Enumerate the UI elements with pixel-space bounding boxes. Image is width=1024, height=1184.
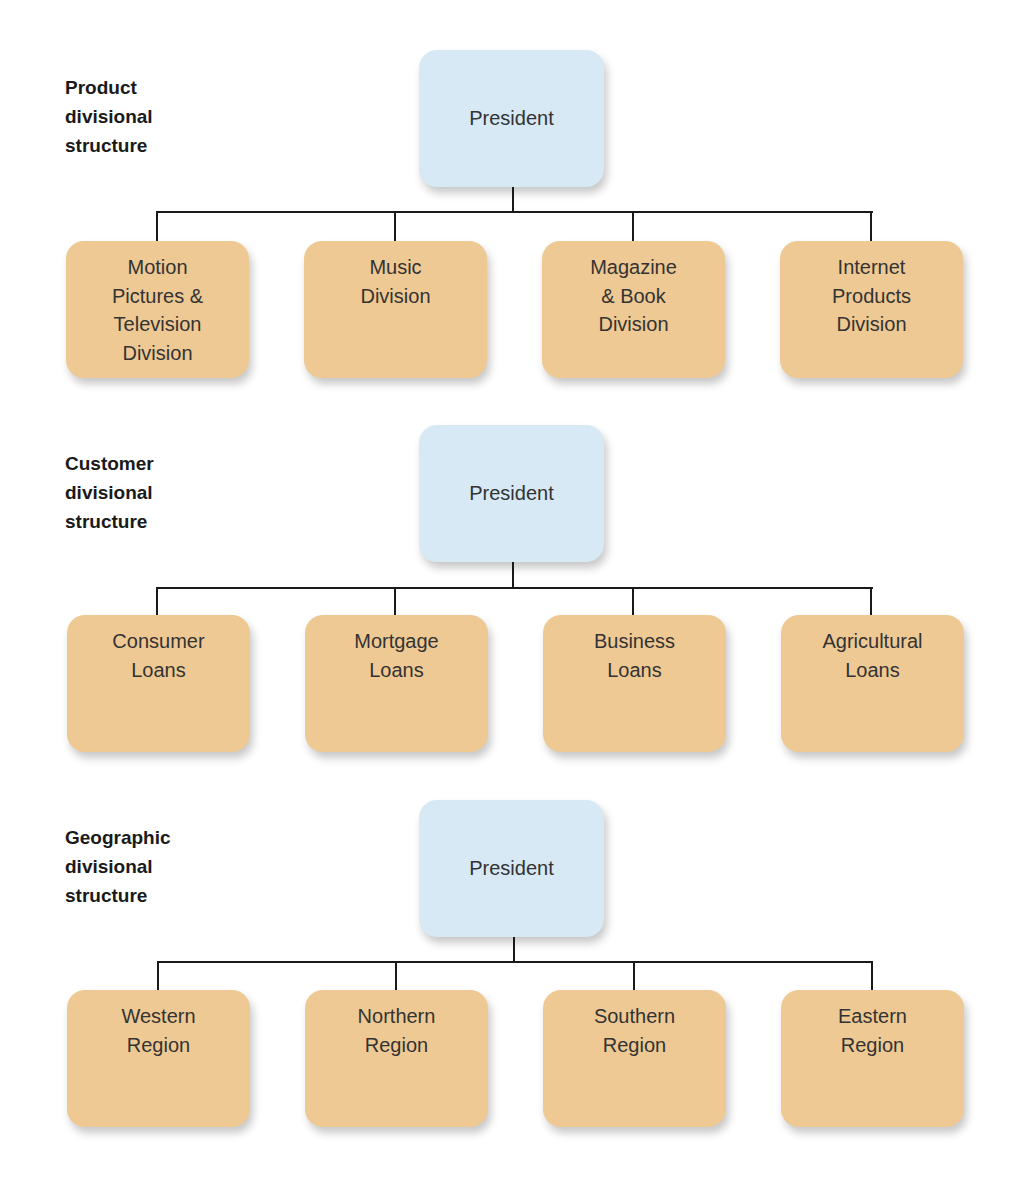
division-label-line: Mortgage (354, 627, 439, 656)
division-label-line: Region (603, 1031, 666, 1060)
connector-line (156, 211, 158, 242)
division-box-magazine-book: Magazine & Book Division (542, 241, 725, 378)
division-box-mortgage-loans: Mortgage Loans (305, 615, 488, 752)
division-box-northern-region: Northern Region (305, 990, 488, 1127)
label-line: divisional (65, 852, 225, 881)
division-box-internet-products: Internet Products Division (780, 241, 963, 378)
division-label-line: Products (832, 282, 911, 311)
president-box: President (419, 425, 604, 562)
connector-line (156, 587, 873, 589)
label-line: structure (65, 881, 225, 910)
connector-line (512, 562, 514, 588)
division-label-line: Region (841, 1031, 904, 1060)
president-label: President (469, 854, 554, 883)
division-label-line: Internet (838, 253, 906, 282)
division-label-line: Business (594, 627, 675, 656)
division-label-line: Motion (127, 253, 187, 282)
division-box-music: Music Division (304, 241, 487, 378)
division-box-business-loans: Business Loans (543, 615, 726, 752)
connector-line (632, 211, 634, 242)
division-label-line: Loans (845, 656, 900, 685)
connector-line (870, 211, 872, 242)
connector-line (394, 211, 396, 242)
division-label-line: Western (121, 1002, 195, 1031)
division-label-line: Music (369, 253, 421, 282)
division-box-consumer-loans: Consumer Loans (67, 615, 250, 752)
division-label-line: Agricultural (822, 627, 922, 656)
connector-line (394, 587, 396, 616)
division-label-line: Loans (607, 656, 662, 685)
division-box-eastern-region: Eastern Region (781, 990, 964, 1127)
section-label: Customer divisional structure (65, 449, 225, 536)
division-label-line: Loans (131, 656, 186, 685)
label-line: Product (65, 73, 225, 102)
product-divisional-structure: Product divisional structure President M… (0, 0, 1024, 380)
division-label-line: Magazine (590, 253, 677, 282)
section-label: Geographic divisional structure (65, 823, 225, 910)
president-label: President (469, 479, 554, 508)
connector-line (513, 937, 515, 963)
division-label-line: Pictures & (112, 282, 203, 311)
section-label: Product divisional structure (65, 73, 225, 160)
division-label-line: Division (836, 310, 906, 339)
division-label-line: Southern (594, 1002, 675, 1031)
president-box: President (419, 800, 604, 937)
connector-line (156, 587, 158, 616)
division-label-line: & Book (601, 282, 665, 311)
division-box-southern-region: Southern Region (543, 990, 726, 1127)
label-line: Geographic (65, 823, 225, 852)
geographic-divisional-structure: Geographic divisional structure Presiden… (0, 750, 1024, 1130)
connector-line (157, 961, 873, 963)
connector-line (395, 961, 397, 991)
label-line: Customer (65, 449, 225, 478)
label-line: divisional (65, 102, 225, 131)
division-box-motion-pictures-television: Motion Pictures & Television Division (66, 241, 249, 378)
division-label-line: Northern (358, 1002, 436, 1031)
customer-divisional-structure: Customer divisional structure President … (0, 375, 1024, 755)
label-line: structure (65, 507, 225, 536)
connector-line (157, 961, 159, 991)
connector-line (512, 187, 514, 213)
connector-line (870, 587, 872, 616)
president-label: President (469, 104, 554, 133)
division-label-line: Division (598, 310, 668, 339)
division-label-line: Division (122, 339, 192, 368)
label-line: structure (65, 131, 225, 160)
division-label-line: Division (360, 282, 430, 311)
division-label-line: Television (114, 310, 202, 339)
division-box-western-region: Western Region (67, 990, 250, 1127)
division-label-line: Region (127, 1031, 190, 1060)
president-box: President (419, 50, 604, 187)
division-label-line: Region (365, 1031, 428, 1060)
division-label-line: Eastern (838, 1002, 907, 1031)
connector-line (156, 211, 873, 213)
connector-line (632, 587, 634, 616)
division-label-line: Loans (369, 656, 424, 685)
label-line: divisional (65, 478, 225, 507)
division-box-agricultural-loans: Agricultural Loans (781, 615, 964, 752)
connector-line (871, 961, 873, 991)
division-label-line: Consumer (112, 627, 204, 656)
connector-line (633, 961, 635, 991)
